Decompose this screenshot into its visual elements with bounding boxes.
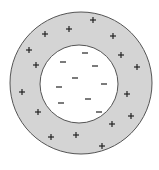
charge-shell-diagram <box>0 0 159 170</box>
